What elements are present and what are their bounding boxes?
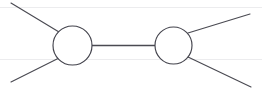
right-vertex-blob (155, 27, 192, 64)
leg-lower-right-line (188, 57, 251, 87)
paper-rule-lines (0, 8, 262, 60)
leg-lower-left-line (11, 58, 59, 82)
diagram-canvas (0, 0, 262, 91)
diagram-svg (0, 0, 262, 91)
leg-upper-right-line (188, 14, 250, 33)
left-vertex-blob (53, 26, 92, 65)
